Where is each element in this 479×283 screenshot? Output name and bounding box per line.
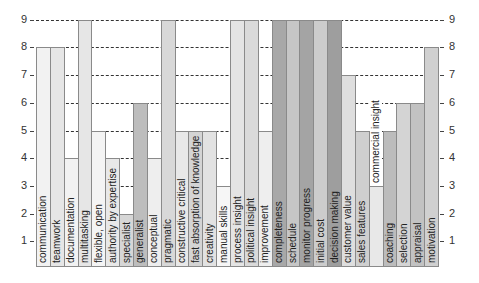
y-tick-label-left: 3 <box>17 180 27 191</box>
tick-mark <box>440 47 444 48</box>
y-tick-label-left: 2 <box>17 208 27 219</box>
bar-label: specialist <box>121 222 133 263</box>
bar-label: teamwork <box>51 220 63 263</box>
bar-label: communication <box>37 196 49 263</box>
bar-label: improvement <box>259 205 271 263</box>
tick-mark <box>440 241 444 242</box>
y-tick-label-right: 1 <box>449 235 455 246</box>
bar-label: monitor progress <box>301 188 313 263</box>
tick-mark <box>30 75 34 76</box>
tick-mark <box>30 214 34 215</box>
y-tick-label-right: 9 <box>449 14 455 25</box>
bar-label: customer value <box>342 195 354 263</box>
tick-mark <box>30 158 34 159</box>
bar-label: decision making <box>329 191 341 263</box>
bar-label: generalist <box>134 220 146 263</box>
tick-mark <box>30 47 34 48</box>
tick-mark <box>30 103 34 104</box>
bar-label: manual skills <box>218 206 230 263</box>
y-tick-label-left: 5 <box>17 125 27 136</box>
bar-label: commercial insight <box>370 100 382 183</box>
bar-label: selection <box>398 224 410 263</box>
bar-label: creativity <box>204 224 216 263</box>
y-tick-label-left: 6 <box>17 97 27 108</box>
bar-label: initial cost <box>315 219 327 263</box>
bar-label: completeness <box>273 201 285 263</box>
tick-mark <box>440 75 444 76</box>
tick-mark <box>440 131 444 132</box>
bar-label: motivation <box>426 217 438 263</box>
tick-mark <box>440 20 444 21</box>
tick-mark <box>30 186 34 187</box>
tick-mark <box>30 20 34 21</box>
bar-label: conceptual <box>148 215 160 263</box>
bar-label: fast absorption of knowledge <box>190 136 202 263</box>
bar-label: multitasking <box>79 210 91 263</box>
y-tick-label-left: 7 <box>17 69 27 80</box>
tick-mark <box>30 131 34 132</box>
bar-label: political insight <box>245 198 257 263</box>
bar-label: schedule <box>287 223 299 263</box>
bar-label: sales features <box>356 201 368 263</box>
y-tick-label-left: 1 <box>17 235 27 246</box>
bar-label: process insight <box>232 196 244 263</box>
tick-mark <box>440 214 444 215</box>
tick-mark <box>440 158 444 159</box>
bar-label: pragmatic <box>162 219 174 263</box>
bar-label: documentation <box>65 197 77 263</box>
bar-label: constructive critical <box>176 179 188 263</box>
y-tick-label-left: 9 <box>17 14 27 25</box>
y-tick-label-left: 4 <box>17 152 27 163</box>
y-tick-label-right: 2 <box>449 208 455 219</box>
tick-mark <box>440 186 444 187</box>
y-tick-label-right: 4 <box>449 152 455 163</box>
tick-mark <box>30 241 34 242</box>
bar-label: flexible, open <box>93 204 105 263</box>
bar <box>369 186 384 267</box>
y-tick-label-right: 6 <box>449 97 455 108</box>
y-tick-label-left: 8 <box>17 41 27 52</box>
bar-label: coaching <box>384 223 396 263</box>
y-tick-label-right: 3 <box>449 180 455 191</box>
tick-mark <box>440 103 444 104</box>
y-tick-label-right: 8 <box>449 41 455 52</box>
y-tick-label-right: 7 <box>449 69 455 80</box>
y-tick-label-right: 5 <box>449 125 455 136</box>
skills-bar-chart: 112233445566778899communicationteamworkd… <box>0 0 479 283</box>
bar-label: appraisal <box>412 222 424 263</box>
bar-label: authority by expertise <box>107 168 119 263</box>
